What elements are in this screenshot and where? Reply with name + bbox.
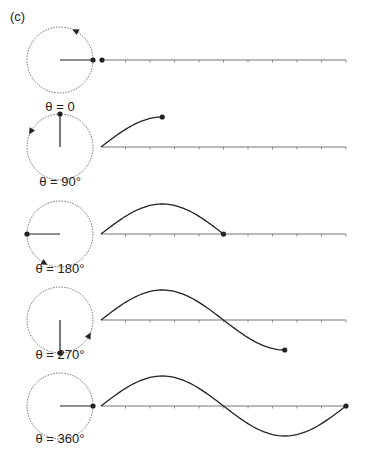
angle-label: θ = 180° xyxy=(36,261,85,276)
trace-end-dot xyxy=(343,403,348,408)
sine-trace xyxy=(101,204,224,234)
rotating-phasor-sine-diagram: (c) θ = 0θ = 90°θ = 180°θ = 270°θ = 360° xyxy=(0,0,367,470)
rotation-arrow-icon xyxy=(73,29,80,35)
phasor-tip-dot xyxy=(57,111,62,116)
panel-0: θ = 0 xyxy=(27,27,346,114)
rotation-arrow-icon xyxy=(29,127,35,134)
phasor-tip-dot xyxy=(90,403,95,408)
trace-end-dot xyxy=(99,57,104,62)
trace-end-dot xyxy=(160,114,165,119)
panel-90: θ = 90° xyxy=(27,111,346,189)
trace-end-dot xyxy=(282,347,287,352)
trace-end-dot xyxy=(221,231,226,236)
angle-label: θ = 360° xyxy=(36,431,85,446)
rotation-arrow-icon xyxy=(85,333,91,340)
phasor-tip-dot xyxy=(24,231,29,236)
sine-trace xyxy=(101,117,162,147)
panels: θ = 0θ = 90°θ = 180°θ = 270°θ = 360° xyxy=(24,27,348,446)
panel-270: θ = 270° xyxy=(27,287,346,362)
phasor-tip-dot xyxy=(90,57,95,62)
angle-label: θ = 90° xyxy=(39,174,81,189)
panel-180: θ = 180° xyxy=(24,201,346,276)
figure-label: (c) xyxy=(10,9,25,24)
angle-label: θ = 270° xyxy=(36,347,85,362)
panel-360: θ = 360° xyxy=(27,373,349,446)
